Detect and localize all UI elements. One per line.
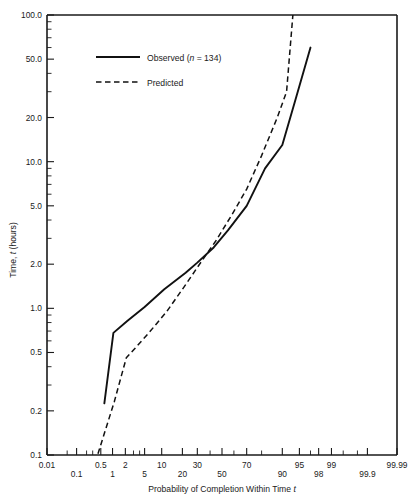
y-tick-label: 1.0 — [30, 303, 42, 313]
x-title-main: Probability of Completion Within Time — [148, 484, 293, 494]
y-tick-label: 100.0 — [21, 10, 42, 20]
x-tick-label: 20 — [178, 469, 188, 479]
x-tick-label: 90 — [278, 469, 288, 479]
x-tick-label: 30 — [193, 460, 203, 470]
x-tick-label: 98 — [314, 469, 324, 479]
figure-background — [0, 0, 416, 500]
y-tick-label: 2.0 — [30, 259, 42, 269]
x-tick-label: 70 — [242, 460, 252, 470]
legend-label-observed: Observed (n = 134) — [147, 53, 221, 63]
y-title-unit: (hours) — [8, 222, 18, 252]
y-tick-label: 0.1 — [30, 450, 42, 460]
y-tick-label: 0.5 — [30, 347, 42, 357]
probability-plot-figure: 100.050.020.010.05.02.01.00.50.20.1 0.01… — [0, 0, 416, 500]
x-tick-label: 2 — [123, 460, 128, 470]
legend-observed-main: Observed ( — [147, 53, 190, 63]
y-tick-label: 50.0 — [26, 54, 43, 64]
x-tick-label: 0.1 — [71, 469, 83, 479]
legend-observed-tail: = 134) — [194, 53, 221, 63]
x-tick-label: 0.01 — [39, 460, 56, 470]
y-tick-label: 5.0 — [30, 201, 42, 211]
x-tick-label: 5 — [142, 469, 147, 479]
x-tick-label: 50 — [217, 469, 227, 479]
x-tick-label: 10 — [157, 460, 167, 470]
y-tick-label: 20.0 — [26, 113, 43, 123]
x-tick-label: 99.99 — [387, 460, 408, 470]
legend-label-predicted: Predicted — [147, 78, 184, 88]
y-title-main: Time, — [8, 254, 18, 278]
x-tick-label: 0.5 — [95, 460, 107, 470]
y-tick-label: 0.2 — [30, 406, 42, 416]
y-axis-title: Time, t (hours) — [8, 222, 18, 278]
chart-canvas: 100.050.020.010.05.02.01.00.50.20.1 0.01… — [0, 0, 416, 500]
x-axis-title: Probability of Completion Within Time t — [148, 484, 296, 494]
x-tick-label: 95 — [295, 460, 305, 470]
x-tick-label: 99.9 — [359, 469, 376, 479]
x-tick-label: 1 — [110, 469, 115, 479]
x-tick-label: 99 — [327, 460, 337, 470]
y-tick-label: 10.0 — [26, 157, 43, 167]
